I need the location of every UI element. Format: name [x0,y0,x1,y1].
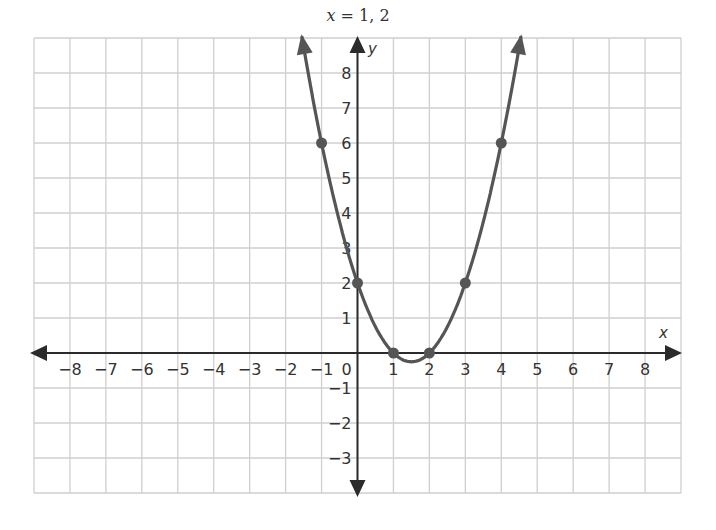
x-tick-label: 8 [640,360,650,379]
tick-labels: −8−7−6−5−4−3−2−101234567887654321−1−2−3 [58,64,650,468]
y-axis-label: y [367,40,378,58]
data-point [460,278,471,289]
x-tick-label: 7 [604,360,614,379]
x-tick-label: 4 [496,360,506,379]
y-tick-label: 2 [341,274,351,293]
x-axis-left-arrow-icon [30,345,47,361]
parabola-curve [297,34,526,362]
x-tick-label: −2 [274,360,298,379]
y-tick-label: −2 [328,414,352,433]
data-point [496,138,507,149]
x-tick-label: −3 [238,360,262,379]
y-tick-label: 5 [341,169,351,188]
parabola-path [302,36,521,362]
x-tick-label: 3 [460,360,470,379]
data-point [424,348,435,359]
chart-title: x = 1, 2 [0,6,716,25]
data-point [388,348,399,359]
y-tick-label: −3 [328,449,352,468]
x-tick-label: −7 [94,360,118,379]
y-tick-label: 1 [341,309,351,328]
plot-area: xy −8−7−6−5−4−3−2−101234567887654321−1−2… [0,0,716,530]
x-tick-label: 5 [532,360,542,379]
x-tick-label: −1 [310,360,334,379]
x-tick-label: −8 [58,360,82,379]
x-axis-label: x [658,324,668,342]
y-tick-label: 6 [341,134,351,153]
axes: xy [30,36,682,497]
x-tick-label: 2 [424,360,434,379]
x-tick-label: −5 [166,360,190,379]
x-tick-label: 1 [388,360,398,379]
data-point [352,278,363,289]
y-tick-label: 7 [341,99,351,118]
y-tick-label: 4 [341,204,351,223]
title-rest: = 1, 2 [335,6,389,25]
chart: x = 1, 2 xy −8−7−6−5−4−3−2−1012345678876… [0,0,716,530]
data-point [316,138,327,149]
curve-right-arrow-icon [510,34,526,55]
x-tick-label: 6 [568,360,578,379]
y-tick-label: 8 [341,64,351,83]
y-axis-down-arrow-icon [350,480,366,497]
x-tick-label: −6 [130,360,154,379]
y-tick-label: −1 [328,379,352,398]
x-axis-right-arrow-icon [665,345,682,361]
x-tick-label: 0 [341,360,351,379]
x-tick-label: −4 [202,360,226,379]
curve-left-arrow-icon [297,34,313,55]
